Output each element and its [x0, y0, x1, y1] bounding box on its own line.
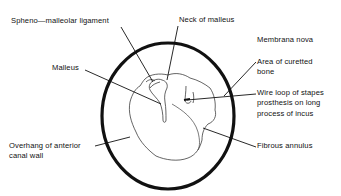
label-text: prosthesis on long [257, 98, 324, 108]
label-spheno-malleolar-ligament: Spheno—malleolar ligament [11, 16, 109, 26]
canal-wall-ring [102, 43, 234, 189]
label-text: canal wall [9, 151, 81, 161]
label-area-of-curetted-bone: Area of curetted bone [257, 57, 313, 78]
label-text: Overhang of anterior [9, 141, 81, 151]
label-text: Spheno—malleolar ligament [11, 16, 109, 26]
leader-wire-loop [187, 94, 256, 100]
membrana-nova-outline [129, 74, 215, 161]
ear-diagram: Spheno—malleolar ligament Neck of malleu… [0, 0, 341, 196]
label-text: Fibrous annulus [257, 141, 313, 151]
fold-line [172, 104, 200, 150]
incus-long-process [185, 86, 194, 103]
label-membrana-nova: Membrana nova [257, 35, 313, 45]
label-text: Neck of malleus [179, 15, 235, 25]
label-overhang-of-anterior-canal-wall: Overhang of anterior canal wall [9, 141, 81, 162]
label-text: Wire loop of stapes [257, 88, 324, 98]
label-text: Malleus [52, 63, 79, 73]
leader-overhang [95, 137, 130, 146]
label-text: process of incus [257, 109, 324, 119]
leader-neck-of-malleus [167, 26, 178, 80]
label-text: bone [257, 67, 313, 77]
leader-spheno-malleolar [121, 27, 153, 82]
label-neck-of-malleus: Neck of malleus [179, 15, 235, 25]
label-fibrous-annulus: Fibrous annulus [257, 141, 313, 151]
label-wire-loop: Wire loop of stapes prosthesis on long p… [257, 88, 324, 119]
leader-curetted-bone [224, 62, 256, 96]
label-text: Membrana nova [257, 35, 313, 45]
label-text: Area of curetted [257, 57, 313, 67]
label-malleus: Malleus [52, 63, 79, 73]
